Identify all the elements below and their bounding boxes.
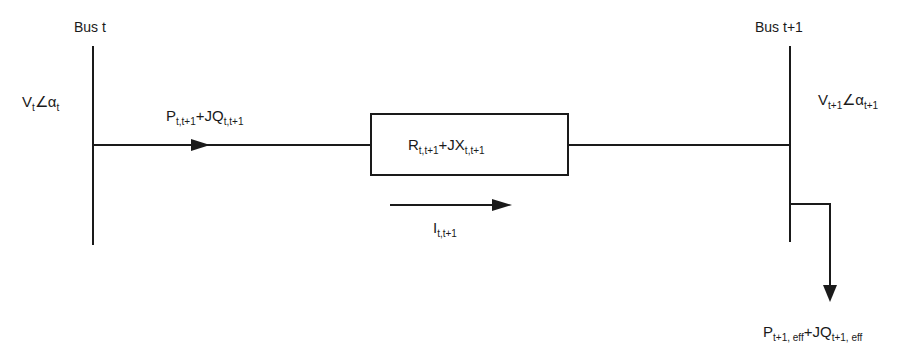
- power-flow-arrow-icon: [191, 139, 210, 151]
- bus-t1-voltage: Vt+1∠αt+1: [818, 92, 878, 107]
- bus-t-voltage: Vt∠αt: [22, 94, 59, 109]
- power-flow-label: Pt,t+1+JQt,t+1: [166, 108, 243, 123]
- bus-t-label: Bus t: [74, 20, 106, 34]
- circuit-wires: [0, 0, 922, 360]
- current-label: It,t+1: [433, 220, 457, 235]
- current-arrow-icon: [492, 199, 512, 211]
- bus-t1-label: Bus t+1: [755, 20, 803, 34]
- load-label: Pt+1, eff+JQt+1, eff: [763, 324, 862, 339]
- load-branch: [790, 204, 830, 288]
- impedance-label: Rt,t+1+JXt,t+1: [408, 137, 485, 152]
- load-arrow-icon: [823, 285, 837, 302]
